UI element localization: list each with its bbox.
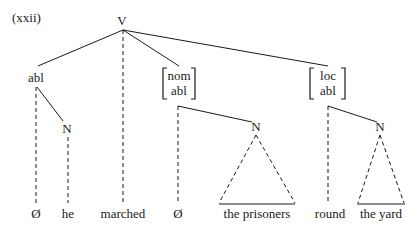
right-bracket [341, 68, 345, 99]
leaf-null-1: Ø [31, 206, 40, 221]
node-n-left: N [62, 121, 72, 136]
left-bracket [163, 68, 167, 99]
leaf-he: he [62, 206, 75, 221]
root-branches [38, 30, 328, 66]
node-n-right: N [375, 119, 385, 134]
leaf-row: Ø he marched Ø the prisoners round the y… [31, 206, 402, 221]
svg-text:nom: nom [167, 68, 190, 83]
branch-abl-n [37, 87, 63, 121]
leaf-null-2: Ø [173, 206, 182, 221]
node-n-middle: N [251, 119, 261, 134]
node-nom-abl: nom abl [163, 68, 195, 99]
leaf-the-yard: the yard [360, 206, 403, 221]
svg-text:loc: loc [320, 68, 336, 83]
branch-nom-abl-n [178, 106, 252, 122]
right-bracket [191, 68, 195, 99]
node-loc-abl: loc abl [310, 68, 345, 99]
branch-v-loc-abl [123, 30, 328, 66]
svg-text:abl: abl [320, 83, 336, 98]
node-abl: abl [28, 70, 44, 85]
example-number: (xxii) [12, 10, 41, 25]
triangle-the-prisoners [219, 135, 295, 204]
svg-text:abl: abl [171, 83, 187, 98]
leaf-marched: marched [101, 206, 146, 221]
node-v: V [117, 13, 127, 28]
triangle-the-yard [357, 135, 405, 204]
leaf-round: round [315, 206, 346, 221]
branch-loc-abl-n [328, 106, 377, 122]
syntax-tree-diagram: (xxii) V abl N nom abl N loc abl N [0, 0, 418, 232]
left-bracket [310, 68, 314, 99]
branch-v-abl [38, 30, 123, 66]
leaf-the-prisoners: the prisoners [224, 206, 291, 221]
